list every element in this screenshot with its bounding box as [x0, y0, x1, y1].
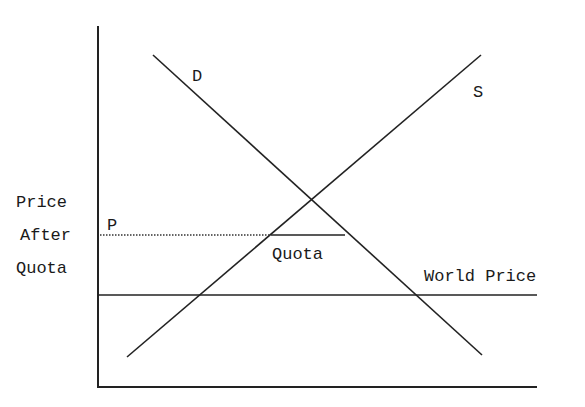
price-after-quota-label-3: Quota — [16, 259, 67, 278]
supply-curve — [127, 55, 481, 357]
demand-label: D — [192, 67, 202, 86]
import-quota-diagram: D S Price After Quota P Quota World Pric… — [0, 0, 585, 407]
quota-label: Quota — [272, 245, 323, 264]
world-price-label: World Price — [424, 267, 536, 286]
price-after-quota-label-1: Price — [16, 193, 67, 212]
supply-label: S — [473, 83, 483, 102]
demand-curve — [153, 55, 482, 355]
price-after-quota-label-2: After — [20, 226, 71, 245]
price-marker-label: P — [107, 216, 117, 235]
